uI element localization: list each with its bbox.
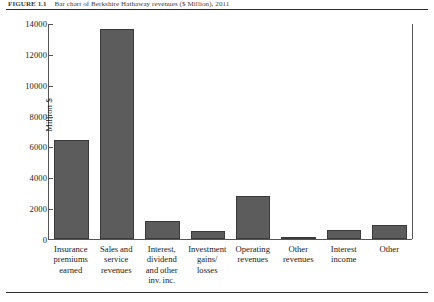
y-tick-label: 14000 [7,20,47,28]
y-tick-label: 0 [7,236,47,244]
bar-slot [94,23,139,239]
top-rule [6,9,428,10]
bar [54,140,88,239]
figure-caption: FIGURE 1.1 Bar chart of Berkshire Hathaw… [8,0,426,9]
x-tick-label: Operatingrevenues [230,244,276,265]
figure-caption-text: Bar chart of Berkshire Hathaway revenues… [55,0,230,8]
bar-slot [276,23,321,239]
bar [281,237,315,239]
y-tick-label: 8000 [7,113,47,121]
bar [236,196,270,239]
x-tick-label: Sales andservicerevenues [94,244,140,275]
bar-slot [231,23,276,239]
bar-slot [140,23,185,239]
bar-series [49,23,412,239]
x-tick-label: Interest,dividendand otherinv. inc. [139,244,185,286]
plot-area: Million $ 020004000600080001000012000140… [48,24,412,240]
bar [100,29,134,239]
y-tick-label: 6000 [7,143,47,151]
x-tick-label: Insurancepremiumsearned [48,244,94,275]
bar-slot [49,23,94,239]
bottom-rule [6,292,428,293]
x-tick-label: Investmentgains/losses [185,244,231,275]
plot-right-border [412,24,413,239]
bar-slot [367,23,412,239]
bar [327,230,361,239]
y-tick-label: 2000 [7,205,47,213]
x-tick-label: Otherrevenues [276,244,322,265]
y-tick-label: 12000 [7,51,47,59]
y-tick-label: 10000 [7,82,47,90]
x-tick-label: Interestincome [321,244,367,265]
bar [145,221,179,240]
figure-container: FIGURE 1.1 Bar chart of Berkshire Hathaw… [0,0,434,302]
x-axis-labels: InsurancepremiumsearnedSales andservicer… [48,244,412,286]
bar-slot [321,23,366,239]
x-tick-label: Other [367,244,413,254]
bar [372,225,406,239]
bar-slot [185,23,230,239]
y-tick-label: 4000 [7,174,47,182]
bar [191,231,225,239]
figure-caption-label: FIGURE 1.1 [8,0,47,8]
